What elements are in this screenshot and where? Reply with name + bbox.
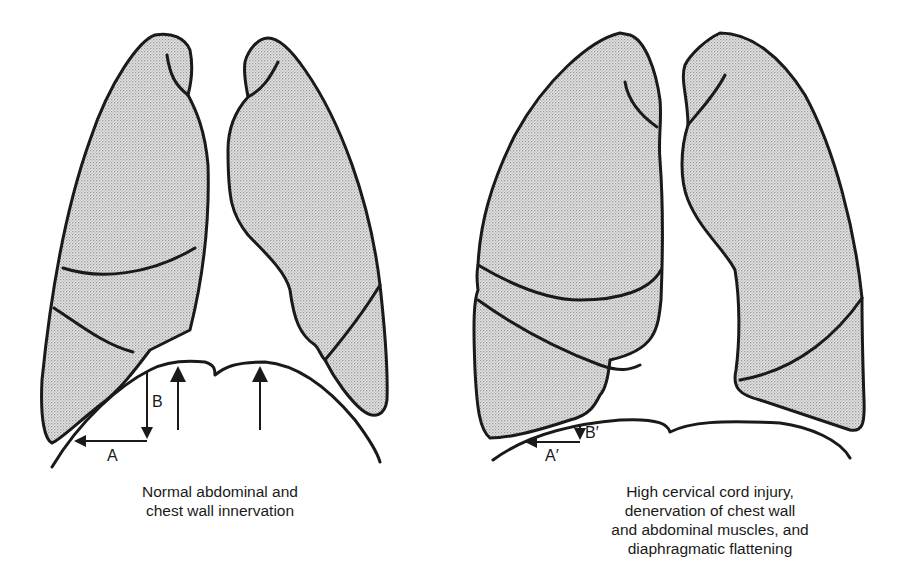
caption-line: High cervical cord injury, <box>560 482 860 501</box>
label-b: B <box>152 393 163 411</box>
right-panel-injury <box>474 33 864 460</box>
caption-line: chest wall innervation <box>100 501 340 520</box>
caption-line: diaphragmatic flattening <box>560 539 860 558</box>
label-a-prime: A′ <box>545 447 559 465</box>
caption-line: Normal abdominal and <box>100 482 340 501</box>
right-lung-right <box>474 33 662 438</box>
label-b-prime: B′ <box>585 424 599 442</box>
caption-line: and abdominal muscles, and <box>560 520 860 539</box>
caption-injury: High cervical cord injury, denervation o… <box>560 482 860 558</box>
label-a: A <box>107 447 118 465</box>
caption-line: denervation of chest wall <box>560 501 860 520</box>
caption-normal: Normal abdominal and chest wall innervat… <box>100 482 340 520</box>
left-panel-normal <box>42 34 388 467</box>
left-lung-right <box>42 34 209 443</box>
